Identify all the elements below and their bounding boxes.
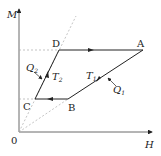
y-axis-label: M <box>6 9 18 20</box>
point-c-label: C <box>23 101 31 112</box>
q2-label: Q2 <box>26 62 38 74</box>
t2-label: T2 <box>52 71 63 83</box>
point-d-label: D <box>52 38 60 49</box>
point-a-label: A <box>136 38 145 49</box>
cycle-diagram: M H 0 D A B C Q1 Q2 T1 T2 <box>0 0 161 156</box>
arrow-b-c-icon <box>47 97 53 101</box>
arrow-a-b-icon <box>96 76 101 82</box>
t1-label: T1 <box>86 70 97 82</box>
origin-label: 0 <box>11 135 17 146</box>
point-b-label: B <box>68 102 75 113</box>
x-axis-label: H <box>144 139 154 150</box>
q1-label: Q1 <box>113 84 125 96</box>
arrow-d-a-icon <box>88 48 94 52</box>
path-a-b <box>68 50 143 99</box>
